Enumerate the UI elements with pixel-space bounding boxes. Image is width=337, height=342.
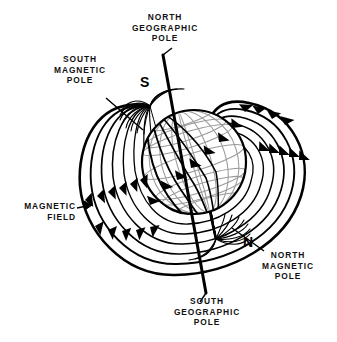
label-north-geographic-pole: NORTH GEOGRAPHIC POLE <box>110 12 220 44</box>
label-magnetic-field: MAGNETIC FIELD <box>2 201 76 222</box>
flow-arrowhead <box>133 224 149 240</box>
magnetic-field-diagram: NORTH GEOGRAPHIC POLE SOUTH MAGNETIC POL… <box>0 0 337 342</box>
leader-north-geographic-pole <box>163 48 172 55</box>
diagram-svg <box>0 0 337 342</box>
flow-arrowhead <box>105 223 121 239</box>
label-south-magnetic-pole: SOUTH MAGNETIC POLE <box>36 54 124 86</box>
label-south-geographic-pole: SOUTH GEOGRAPHIC POLE <box>152 296 262 328</box>
s-pole-fan <box>150 92 166 106</box>
pole-marker-north-magnetic: N <box>243 234 253 250</box>
pole-marker-south-magnetic: S <box>140 74 149 90</box>
label-north-magnetic-pole: NORTH MAGNETIC POLE <box>243 250 333 282</box>
s-pole-fan <box>150 90 171 106</box>
